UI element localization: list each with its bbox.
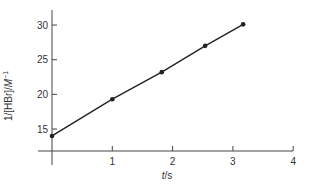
y-axis-label-sup: −1 — [2, 71, 9, 79]
axes — [38, 10, 293, 165]
data-point-marker — [203, 44, 208, 49]
x-tick-label: 3 — [230, 156, 236, 167]
y-tick-label: 15 — [37, 124, 49, 135]
series-line — [52, 24, 243, 135]
y-ticks: 15202530 — [37, 20, 57, 135]
line-chart: 1234 15202530 t/s 1/[HBr]/M−1 — [0, 0, 311, 186]
data-point-marker — [110, 97, 115, 102]
x-axis-label: t/s — [162, 170, 173, 181]
x-tick-label: 4 — [290, 156, 296, 167]
data-point-marker — [241, 22, 246, 27]
y-tick-label: 30 — [37, 20, 49, 31]
y-tick-label: 25 — [37, 54, 49, 65]
data-series — [50, 22, 246, 138]
y-axis-label: 1/[HBr]/M−1 — [2, 71, 14, 121]
x-axis-label-unit: /s — [165, 170, 173, 181]
x-ticks: 1234 — [110, 146, 297, 167]
x-tick-label: 2 — [170, 156, 176, 167]
data-point-marker — [159, 70, 164, 75]
data-point-marker — [50, 134, 55, 139]
x-tick-label: 1 — [110, 156, 116, 167]
y-tick-label: 20 — [37, 89, 49, 100]
y-axis-label-prefix: 1/[HBr]/ — [3, 87, 14, 121]
